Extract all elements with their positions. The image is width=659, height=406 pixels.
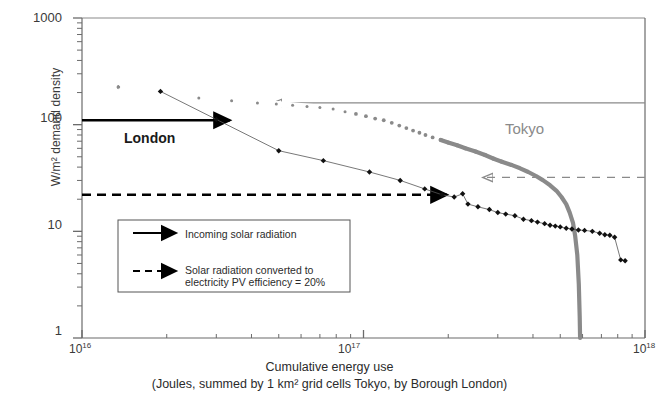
series-tokyo-point [424, 133, 428, 137]
series-london-point [618, 257, 623, 262]
series-tokyo-point [306, 105, 309, 108]
series-tokyo-point [411, 129, 415, 133]
series-tokyo-point [354, 112, 358, 116]
y-tick-10: 10 [22, 217, 62, 232]
series-london-point [597, 231, 602, 236]
series-london-point [397, 178, 402, 183]
series-london-point [602, 232, 607, 237]
series-london-point [367, 169, 372, 174]
annotation-tokyo: Tokyo [505, 120, 544, 137]
series-tokyo-point [197, 96, 200, 99]
series-london-point [452, 194, 457, 199]
y-tick-100: 100 [22, 110, 62, 125]
series-tokyo-point [418, 131, 422, 135]
series-tokyo-point [344, 110, 347, 113]
series-tokyo-point [117, 86, 120, 89]
x-axis-title-line1: Cumulative energy use [0, 360, 659, 374]
series-london-point [529, 218, 534, 223]
series-london-point [582, 228, 587, 233]
series-london-point [487, 207, 492, 212]
series-tokyo-point [483, 153, 487, 157]
series-london-point [276, 148, 281, 153]
series-london-point [542, 221, 547, 226]
series-london-point [512, 213, 517, 218]
series-london-point [321, 158, 326, 163]
series-tokyo-point [509, 163, 513, 167]
series-london-point [460, 191, 465, 196]
series-london-point [439, 192, 444, 197]
x-tick-1e18: 1018 [633, 341, 655, 356]
legend-label-pv-line1: Solar radiation converted to [185, 264, 313, 276]
series-tokyo-point [291, 104, 294, 107]
series-tokyo-point [500, 160, 504, 164]
series-tokyo-point [473, 149, 477, 153]
series-london-point [521, 216, 526, 221]
series-tokyo-point [404, 126, 408, 130]
series-london-point [558, 224, 563, 229]
series-london-point [465, 201, 470, 206]
series-tokyo-point [390, 121, 394, 125]
series-london-point [495, 210, 500, 215]
series-london-point [622, 258, 627, 263]
x-tick-1e16: 1016 [69, 341, 91, 356]
series-tokyo-point [446, 140, 450, 144]
series-tokyo-point [230, 99, 233, 102]
series-london-point [422, 186, 427, 191]
series-tokyo-point [431, 135, 435, 139]
series-tokyo-point [364, 114, 368, 118]
legend-label-pv-line2: electricity PV efficiency = 20% [185, 276, 325, 288]
x-axis-title-line2: (Joules, summed by 1 km² grid cells Toky… [0, 377, 659, 391]
series-tokyo-point [492, 157, 496, 161]
series-london-point [553, 223, 558, 228]
series-london-point [547, 223, 552, 228]
series-london-point [535, 219, 540, 224]
chart-figure: W/m² demand density 1000 100 10 1 1016 1… [0, 0, 659, 406]
series-london-point [503, 211, 508, 216]
x-tick-1e17: 1017 [338, 341, 360, 356]
series-tokyo-point [439, 138, 443, 142]
series-london-point [590, 229, 595, 234]
series-tokyo-point [256, 101, 259, 104]
y-axis-title: W/m² demand density [49, 67, 63, 187]
y-tick-1000: 1000 [22, 10, 62, 25]
series-london-point [607, 232, 612, 237]
y-tick-1: 1 [22, 323, 62, 338]
series-london-point [612, 235, 617, 240]
series-tokyo-point [397, 124, 401, 128]
legend-label-incoming-solar: Incoming solar radiation [185, 228, 296, 240]
series-tokyo-point [332, 108, 335, 111]
series-tokyo-point [275, 103, 278, 106]
series-tokyo-point [318, 106, 321, 109]
annotation-london: London [124, 130, 175, 146]
chart-svg [0, 0, 659, 406]
series-tokyo-point [455, 143, 459, 147]
series-tokyo-point [463, 146, 467, 150]
series-tokyo-point [382, 118, 386, 122]
series-tokyo-point [373, 117, 377, 121]
series-london-point [475, 204, 480, 209]
series-london-point [564, 225, 569, 230]
